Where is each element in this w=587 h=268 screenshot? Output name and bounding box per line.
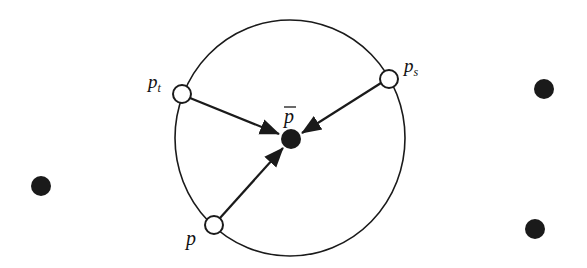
label-ps: ps bbox=[402, 55, 419, 79]
node-out-left bbox=[31, 176, 51, 196]
label-pt: pt bbox=[146, 71, 162, 95]
edge-ps-to-pbar bbox=[302, 83, 381, 133]
diagram-canvas: pt ps p p bbox=[0, 0, 587, 268]
label-ps-base: p bbox=[402, 55, 414, 76]
svg-text:pt: pt bbox=[146, 71, 162, 95]
label-pt-base: p bbox=[146, 71, 158, 92]
node-out-top-right bbox=[534, 79, 554, 99]
svg-text:ps: ps bbox=[402, 55, 419, 79]
node-ps bbox=[380, 70, 398, 88]
label-ps-sub: s bbox=[414, 65, 419, 79]
edge-pt-to-pbar bbox=[190, 98, 279, 134]
node-p bbox=[205, 216, 223, 234]
label-p-base: p bbox=[184, 227, 196, 250]
edge-p-to-pbar bbox=[220, 148, 283, 218]
node-out-bottom-right bbox=[525, 219, 545, 239]
node-pbar bbox=[281, 129, 301, 149]
label-pbar: p bbox=[282, 105, 296, 128]
label-p: p bbox=[184, 227, 196, 250]
label-pt-sub: t bbox=[158, 81, 162, 95]
label-pbar-base: p bbox=[282, 105, 294, 128]
node-pt bbox=[173, 85, 191, 103]
